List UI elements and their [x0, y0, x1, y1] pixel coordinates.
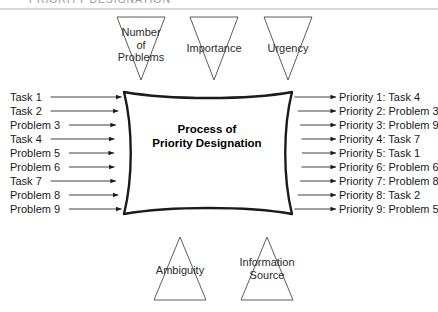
bottom-factor-label-information-source: InformationSource	[239, 256, 294, 281]
output-label: Priority 5: Task 1	[339, 148, 420, 159]
input-label: Task 1	[10, 92, 42, 103]
output-label: Priority 9: Problem 5	[339, 204, 438, 215]
process-core-label: Process of Priority Designation	[152, 122, 261, 150]
top-factor-importance-line-1: Importance	[186, 42, 241, 55]
output-label: Priority 2: Problem 3	[339, 106, 438, 117]
bottom-factor-ambiguity-line-1: Ambiguity	[156, 264, 204, 277]
output-arrow-group	[294, 97, 336, 209]
process-core-line-2: Priority Designation	[152, 136, 261, 150]
top-factor-label-importance: Importance	[186, 42, 241, 55]
bottom-factor-information-source-line-1: Information	[239, 256, 294, 269]
top-factor-number-of-problems-line-3: Problems	[118, 51, 164, 64]
bottom-factor-label-ambiguity: Ambiguity	[156, 264, 204, 277]
top-factor-number-of-problems-line-1: Number	[118, 26, 164, 39]
top-factor-number-of-problems-line-2: of	[118, 39, 164, 52]
output-label: Priority 3: Problem 9	[339, 120, 438, 131]
process-cushion-shape	[124, 92, 292, 214]
input-label: Task 2	[10, 106, 42, 117]
input-label: Task 4	[10, 134, 42, 145]
priority-designation-figure: PRIORITY DESIGNATION Process of Priority…	[0, 0, 438, 312]
output-label: Priority 7: Problem 8	[339, 176, 438, 187]
bottom-factor-information-source-line-2: Source	[239, 269, 294, 282]
output-label: Priority 4: Task 7	[339, 134, 420, 145]
input-label: Problem 3	[10, 120, 60, 131]
input-label: Problem 9	[10, 204, 60, 215]
input-arrow-group	[51, 97, 122, 209]
process-core-line-1: Process of	[152, 122, 261, 136]
output-label: Priority 6: Problem 6	[339, 162, 438, 173]
input-label: Problem 5	[10, 148, 60, 159]
top-factor-label-number-of-problems: NumberofProblems	[118, 26, 164, 64]
top-factor-urgency-line-1: Urgency	[268, 42, 309, 55]
input-label: Problem 8	[10, 190, 60, 201]
input-label: Task 7	[10, 176, 42, 187]
top-factor-label-urgency: Urgency	[268, 42, 309, 55]
output-label: Priority 1: Task 4	[339, 92, 420, 103]
output-label: Priority 8: Task 2	[339, 190, 420, 201]
input-label: Problem 6	[10, 162, 60, 173]
